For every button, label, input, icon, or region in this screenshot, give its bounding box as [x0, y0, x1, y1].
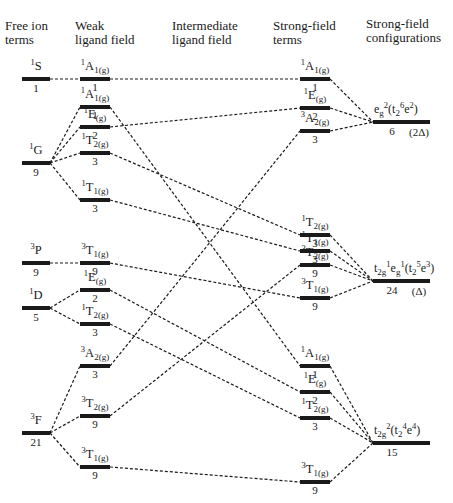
weak-field-term-label: 3T1(g) — [82, 448, 109, 461]
strong-field-term-label: 1T2(g) — [302, 399, 329, 412]
free-ion-level-3P — [22, 261, 50, 265]
correlation-line — [110, 200, 300, 251]
correlation-line — [50, 290, 80, 308]
configuration-level-c1 — [373, 120, 430, 124]
free-ion-level-1S — [22, 77, 50, 81]
correlation-line — [110, 131, 300, 366]
weak-field-term-label: 1E(g) — [84, 271, 106, 284]
degeneracy-label: 3 — [92, 327, 98, 338]
free-ion-level-1D — [22, 306, 50, 310]
correlation-line — [330, 392, 373, 443]
strong-field-term-label: 3A2(g) — [301, 112, 329, 125]
correlation-line — [330, 122, 373, 131]
degeneracy-label: 9 — [92, 419, 98, 430]
degeneracy-label: 5 — [33, 312, 39, 323]
correlation-line — [330, 265, 373, 281]
configuration-label: t2g2(t24e4) — [374, 424, 420, 437]
degeneracy-label: 3 — [92, 156, 98, 167]
free-ion-level-1G — [22, 161, 50, 165]
correlation-line — [330, 251, 373, 281]
weak-field-term-label: 3T2(g) — [82, 397, 109, 410]
weak-field-term-label: 1A1(g) — [81, 88, 109, 101]
correlation-line — [50, 163, 80, 200]
energy-label: (Δ) — [412, 286, 426, 297]
correlation-line — [330, 281, 373, 298]
correlation-line — [330, 418, 373, 443]
degeneracy-label: 9 — [33, 167, 39, 178]
correlation-line — [330, 235, 373, 281]
strong-field-term-label: 1E(g) — [304, 373, 326, 386]
degeneracy-label: 9 — [312, 301, 318, 312]
configuration-label: eg2(t26e2) — [374, 103, 418, 116]
correlation-line — [110, 467, 300, 482]
weak-field-term-label: 3A2(g) — [81, 347, 109, 360]
weak-field-term-label: 1E(g) — [84, 108, 106, 121]
correlation-line — [110, 263, 300, 298]
correlation-line — [50, 366, 80, 433]
correlation-line — [50, 433, 80, 467]
degeneracy-label: 15 — [387, 447, 398, 458]
free-ion-term-label: 1D — [29, 289, 42, 302]
energy-label: (2Δ) — [409, 127, 429, 138]
strong-field-term-label: 1E(g) — [304, 89, 326, 102]
weak-field-term-label: 1T2(g) — [82, 305, 109, 318]
strong-field-term-label: 1A1(g) — [301, 60, 329, 73]
degeneracy-label: 24 — [387, 285, 398, 296]
degeneracy-label: 21 — [31, 437, 42, 448]
weak-field-term-label: 1A1(g) — [81, 60, 109, 73]
strong-field-term-label: 1A1(g) — [301, 347, 329, 360]
correlation-line — [330, 443, 373, 482]
free-ion-term-label: 3P — [30, 244, 41, 257]
configuration-label: t2g1eg1(t25e3) — [374, 262, 434, 275]
configuration-level-c3 — [373, 441, 430, 445]
correlation-line — [110, 324, 300, 418]
degeneracy-label: 2 — [92, 293, 98, 304]
weak-field-term-label: 1T1(g) — [82, 181, 109, 194]
degeneracy-label: 9 — [33, 267, 39, 278]
correlation-line — [330, 366, 373, 443]
strong-field-term-label: 1T2(g) — [302, 216, 329, 229]
degeneracy-label: 3 — [92, 369, 98, 380]
degeneracy-label: 9 — [312, 485, 318, 496]
degeneracy-label: 3 — [312, 134, 318, 145]
strong-field-term-label: 3T1(g) — [302, 463, 329, 476]
strong-field-term-label: 1T1(g) — [302, 232, 329, 245]
strong-field-term-label: 3T2(g) — [302, 246, 329, 259]
free-ion-term-label: 1G — [29, 144, 42, 157]
strong-field-term-label: 3T1(g) — [302, 279, 329, 292]
weak-field-term-label: 3T1(g) — [82, 244, 109, 257]
degeneracy-label: 3 — [92, 203, 98, 214]
correlation-line — [110, 108, 300, 127]
degeneracy-label: 1 — [33, 83, 39, 94]
free-ion-level-3F — [22, 431, 50, 435]
degeneracy-label: 9 — [92, 470, 98, 481]
correlation-line — [50, 416, 80, 433]
correlation-line — [110, 265, 300, 416]
correlation-line — [110, 107, 300, 366]
free-ion-term-label: 3F — [30, 414, 41, 427]
correlation-line — [50, 308, 80, 324]
weak-field-term-label: 1T2(g) — [82, 134, 109, 147]
free-ion-term-label: 1S — [30, 60, 41, 73]
degeneracy-label: 3 — [312, 421, 318, 432]
degeneracy-label: 6 — [389, 126, 395, 137]
configuration-level-c2 — [373, 279, 430, 283]
